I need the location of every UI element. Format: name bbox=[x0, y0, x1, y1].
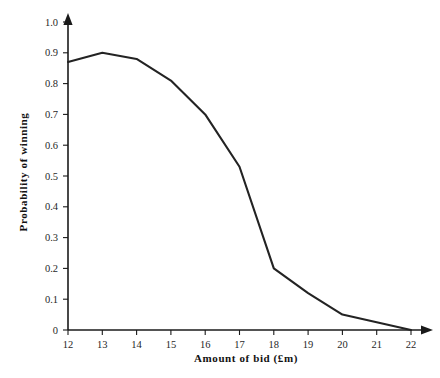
x-tick-label: 14 bbox=[131, 339, 142, 350]
x-tick-label: 16 bbox=[200, 339, 211, 350]
chart-canvas: 00.10.20.30.40.50.60.70.80.91.0 12131415… bbox=[0, 0, 440, 378]
x-axis-title: Amount of bid (£m) bbox=[194, 352, 298, 365]
y-tick-label: 1.0 bbox=[45, 17, 58, 28]
y-tick-label: 0.6 bbox=[45, 140, 58, 151]
x-tick-label: 17 bbox=[234, 339, 245, 350]
x-tick-label: 18 bbox=[269, 339, 280, 350]
x-tick-label: 13 bbox=[97, 339, 108, 350]
y-axis-title: Probability of winning bbox=[17, 113, 29, 232]
y-tick-label: 0.7 bbox=[45, 109, 58, 120]
x-tick-label: 20 bbox=[337, 339, 348, 350]
y-tick-label: 0.5 bbox=[45, 171, 58, 182]
x-tick-label: 19 bbox=[303, 339, 314, 350]
x-tick-label: 15 bbox=[166, 339, 177, 350]
y-tick-label: 0 bbox=[53, 325, 58, 336]
probability-of-winning-chart: 00.10.20.30.40.50.60.70.80.91.0 12131415… bbox=[0, 0, 440, 378]
x-tick-label: 21 bbox=[371, 339, 382, 350]
y-tick-label: 0.9 bbox=[45, 47, 58, 58]
x-tick-label: 12 bbox=[63, 339, 74, 350]
y-tick-label: 0.2 bbox=[45, 263, 58, 274]
x-tick-label: 22 bbox=[406, 339, 417, 350]
y-tick-label: 0.3 bbox=[45, 232, 58, 243]
y-tick-label: 0.1 bbox=[45, 294, 58, 305]
y-tick-label: 0.8 bbox=[45, 78, 58, 89]
y-tick-label: 0.4 bbox=[45, 201, 59, 212]
